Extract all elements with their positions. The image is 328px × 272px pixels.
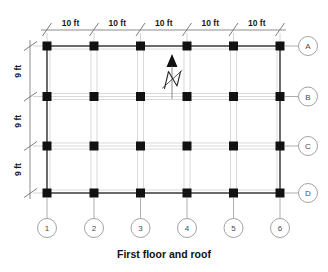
column-1-C	[43, 142, 52, 151]
row-bubble-label-C: C	[305, 142, 311, 151]
column-1-D	[43, 189, 52, 198]
left-dimension-label-1: 9 ft	[13, 65, 23, 78]
top-dimension-label-3: 10 ft	[155, 18, 173, 28]
structural-floor-plan-drawing: 10 ft10 ft10 ft10 ft10 ft 9 ft9 ft9 ft A…	[0, 0, 328, 272]
left-dimension-label-2: 9 ft	[13, 115, 23, 128]
top-dimension-label-4: 10 ft	[202, 18, 220, 28]
plan-canvas: 10 ft10 ft10 ft10 ft10 ft 9 ft9 ft9 ft A…	[0, 0, 328, 272]
top-dimension-label-2: 10 ft	[109, 18, 127, 28]
perimeter-beam-lines	[47, 46, 280, 193]
column-5-B	[229, 92, 238, 101]
column-bubble-label-3: 3	[138, 224, 143, 233]
column-markers	[43, 42, 285, 198]
column-3-B	[136, 92, 145, 101]
column-6-B	[276, 92, 285, 101]
column-bubble-label-4: 4	[185, 224, 190, 233]
interior-beam-lines	[47, 46, 280, 193]
left-dimension-string: 9 ft9 ft9 ft	[13, 40, 44, 199]
column-5-C	[229, 142, 238, 151]
column-6-D	[276, 189, 285, 198]
column-6-C	[276, 142, 285, 151]
row-grid-bubbles: ABCD	[285, 37, 318, 203]
column-4-A	[183, 42, 192, 51]
column-2-A	[90, 42, 99, 51]
column-5-A	[229, 42, 238, 51]
column-6-A	[276, 42, 285, 51]
column-3-A	[136, 42, 145, 51]
row-bubble-label-D: D	[305, 189, 311, 198]
top-dimension-string: 10 ft10 ft10 ft10 ft10 ft	[41, 18, 286, 43]
column-3-D	[136, 189, 145, 198]
column-grid-bubbles: 123456	[38, 198, 290, 238]
column-5-D	[229, 189, 238, 198]
column-2-D	[90, 189, 99, 198]
column-bubble-label-6: 6	[278, 224, 283, 233]
top-dimension-label-5: 10 ft	[248, 18, 266, 28]
left-dimension-label-3: 9 ft	[13, 163, 23, 176]
north-arrow-head-icon	[167, 54, 178, 67]
top-dimension-label-1: 10 ft	[62, 18, 80, 28]
row-bubble-label-B: B	[305, 93, 310, 102]
column-4-B	[183, 92, 192, 101]
column-2-C	[90, 142, 99, 151]
column-1-B	[43, 92, 52, 101]
column-bubble-label-2: 2	[92, 224, 97, 233]
row-bubble-label-A: A	[305, 42, 311, 51]
column-1-A	[43, 42, 52, 51]
column-bubble-label-1: 1	[45, 224, 50, 233]
column-4-C	[183, 142, 192, 151]
north-arrow-icon	[163, 54, 183, 99]
column-2-B	[90, 92, 99, 101]
column-3-C	[136, 142, 145, 151]
column-bubble-label-5: 5	[231, 224, 236, 233]
drawing-caption: First floor and roof	[117, 248, 211, 260]
column-4-D	[183, 189, 192, 198]
